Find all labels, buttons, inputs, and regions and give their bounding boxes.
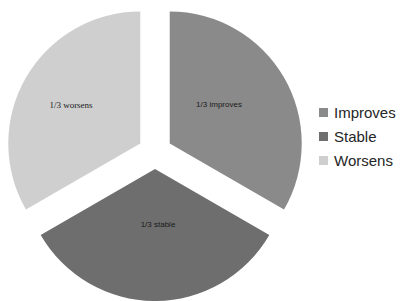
pie-slice-stable[interactable] [41, 169, 270, 301]
legend-label-worsens: Worsens [334, 153, 393, 168]
legend-label-improves: Improves [334, 105, 396, 120]
legend-item-worsens[interactable]: Worsens [319, 149, 418, 172]
pie-slice-worsens[interactable] [8, 12, 140, 210]
legend-label-stable: Stable [334, 129, 377, 144]
legend-swatch-stable-icon [319, 132, 328, 141]
legend-swatch-worsens-icon [319, 156, 328, 165]
pie-slice-improves[interactable] [170, 12, 302, 210]
legend-swatch-improves-icon [319, 108, 328, 117]
pie-chart: 1/3 improves 1/3 stable 1/3 worsens Impr… [0, 0, 418, 301]
chart-legend: Improves Stable Worsens [319, 101, 418, 173]
pie-slice-label-improves: 1/3 improves [196, 100, 242, 109]
pie-slice-label-worsens: 1/3 worsens [49, 100, 93, 110]
legend-item-stable[interactable]: Stable [319, 125, 418, 148]
pie-slices [8, 12, 301, 301]
pie-slice-label-stable: 1/3 stable [141, 220, 176, 229]
legend-item-improves[interactable]: Improves [319, 101, 418, 124]
